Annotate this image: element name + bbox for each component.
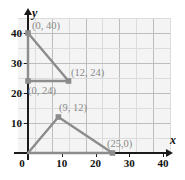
label-9-12: (9, 12)	[59, 102, 87, 113]
marker-0-24	[25, 78, 31, 84]
marker-0-40	[25, 30, 31, 36]
marker-12-24	[66, 78, 72, 84]
label-0-40: (0, 40)	[32, 20, 60, 31]
marker-25-0	[110, 150, 116, 156]
label-12-24: (12, 24)	[71, 67, 104, 78]
series-lower-triangle	[28, 117, 112, 153]
marker-9-12	[56, 114, 62, 120]
coordinate-plane-figure: x y 0 10 20 30 40 10 20 30 40 (0, 40) (1…	[0, 0, 185, 180]
label-0-24: (0, 24)	[28, 85, 56, 96]
label-25-0: (25,0)	[107, 138, 132, 149]
series-upper-triangle	[28, 33, 69, 81]
